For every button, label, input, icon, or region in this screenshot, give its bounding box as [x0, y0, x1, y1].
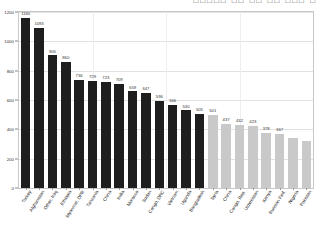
bar-column[interactable] [128, 12, 138, 188]
bar-column[interactable] [248, 12, 258, 188]
bar[interactable] [302, 141, 312, 188]
clipped-header-text: □□□□□ □□ □□ □□ □□□ □ [193, 0, 317, 5]
bar[interactable] [155, 101, 165, 188]
y-tick-mark [15, 129, 18, 130]
bar[interactable] [168, 105, 178, 188]
bar-value-label: 423 [247, 120, 259, 124]
bar-value-label: 596 [154, 95, 166, 99]
bar[interactable] [195, 114, 205, 188]
x-tick-label: China [102, 190, 112, 203]
bar-value-label: 530 [180, 105, 192, 109]
bar-value-label: 1093 [33, 22, 45, 26]
x-tick-label: Pakistan [300, 190, 313, 207]
bar-column[interactable] [101, 12, 111, 188]
bar[interactable] [248, 126, 258, 188]
bar-column[interactable] [74, 12, 84, 188]
bar-value-label: 501 [207, 109, 219, 113]
bar-column[interactable] [21, 12, 31, 188]
x-tick-label: Morocco [126, 190, 139, 207]
bar-value-label: 709 [113, 78, 125, 82]
bar[interactable] [275, 134, 285, 188]
clipped-header-strip: □□□□□ □□ □□ □□ □□□ □ [0, 0, 321, 10]
bar-column[interactable] [261, 12, 271, 188]
bar[interactable] [141, 93, 151, 188]
bar[interactable] [114, 84, 124, 188]
bar[interactable] [181, 110, 191, 188]
y-tick-mark [15, 70, 18, 71]
bar[interactable] [235, 125, 245, 188]
y-tick-label: 600 [7, 98, 14, 103]
bar-value-label: 432 [234, 119, 246, 123]
bar-column[interactable] [221, 12, 231, 188]
x-tick-label: India [117, 190, 126, 201]
bar-column[interactable] [302, 12, 312, 188]
x-tick-label: Turkey [21, 190, 32, 204]
bar-value-label: 566 [167, 99, 179, 103]
bar-value-label: 367 [274, 128, 286, 132]
bar[interactable] [74, 80, 84, 188]
bar[interactable] [34, 28, 44, 188]
x-tick-label: China [223, 190, 233, 203]
x-tick-label: Syria [210, 190, 219, 201]
bar-value-label: 505 [194, 108, 206, 112]
bar[interactable] [101, 82, 111, 188]
bar-value-label: 659 [127, 86, 139, 90]
bar-column[interactable] [181, 12, 191, 188]
y-tick-mark [15, 41, 18, 42]
bar-column[interactable] [288, 12, 298, 188]
bar-column[interactable] [235, 12, 245, 188]
x-tick-label: Other, Iraq [44, 190, 59, 211]
bar-value-label: 437 [220, 118, 232, 122]
bar-value-label: 729 [87, 75, 99, 79]
y-tick-label: 800 [7, 68, 14, 73]
y-tick-mark [15, 188, 18, 189]
bar-column[interactable] [195, 12, 205, 188]
y-tick-mark [15, 12, 18, 13]
bar-column[interactable] [48, 12, 58, 188]
bar[interactable] [88, 81, 98, 188]
bar-value-label: 723 [100, 76, 112, 80]
x-tick-label: Nigeria [288, 190, 300, 205]
x-tick-label: Kenya [262, 190, 273, 203]
bar-column[interactable] [208, 12, 218, 188]
chart-page: □□□□□ □□ □□ □□ □□□ □ 0200400600800100012… [0, 0, 321, 239]
bar-column[interactable] [155, 12, 165, 188]
x-tick-mark [240, 188, 241, 190]
y-tick-label: 1200 [4, 10, 14, 15]
bar[interactable] [48, 55, 58, 188]
bar-column[interactable] [61, 12, 71, 188]
y-tick-label: 200 [7, 156, 14, 161]
y-tick-mark [15, 100, 18, 101]
bar[interactable] [221, 124, 231, 188]
bar-value-label: 905 [47, 50, 59, 54]
x-tick-mark [93, 188, 94, 190]
bar-column[interactable] [114, 12, 124, 188]
bar[interactable] [128, 91, 138, 188]
bar[interactable] [261, 133, 271, 188]
x-tick-label: Vietnam [167, 190, 180, 207]
bar-value-label: 736 [73, 74, 85, 78]
bar[interactable] [61, 62, 71, 188]
x-tick-label: Sudan [142, 190, 153, 204]
bar-value-label: 1160 [20, 12, 32, 16]
x-tick-label: Tanzania [86, 190, 100, 208]
bar-value-label: 647 [140, 87, 152, 91]
bar[interactable] [288, 138, 298, 188]
y-tick-label: 400 [7, 127, 14, 132]
x-axis-labels: TurkeyAfghanistanOther, IraqEthiopiaMyan… [19, 190, 313, 239]
bar-value-label: 860 [60, 56, 72, 60]
y-tick-label: 1000 [4, 39, 14, 44]
bar-column[interactable] [275, 12, 285, 188]
y-tick-label: 0 [12, 186, 14, 191]
bar[interactable] [208, 115, 218, 188]
y-axis: 020040060080010001200 [0, 11, 18, 189]
bar-value-label: 378 [260, 127, 272, 131]
bar[interactable] [21, 18, 31, 188]
bars-layer: 1160109390586073672972370965964759656653… [19, 12, 313, 188]
bar-column[interactable] [141, 12, 151, 188]
bar-column[interactable] [34, 12, 44, 188]
y-tick-mark [15, 158, 18, 159]
bar-column[interactable] [88, 12, 98, 188]
